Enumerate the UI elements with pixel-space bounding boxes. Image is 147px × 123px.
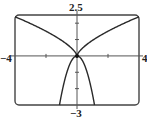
y-min-label: −3: [70, 108, 82, 119]
origin-point: [75, 54, 79, 58]
plot-area: [0, 0, 147, 123]
x-min-label: −4: [0, 53, 12, 64]
y-max-label: 2.5: [69, 2, 83, 13]
axes: [11, 11, 143, 109]
x-max-label: 4: [142, 53, 147, 64]
